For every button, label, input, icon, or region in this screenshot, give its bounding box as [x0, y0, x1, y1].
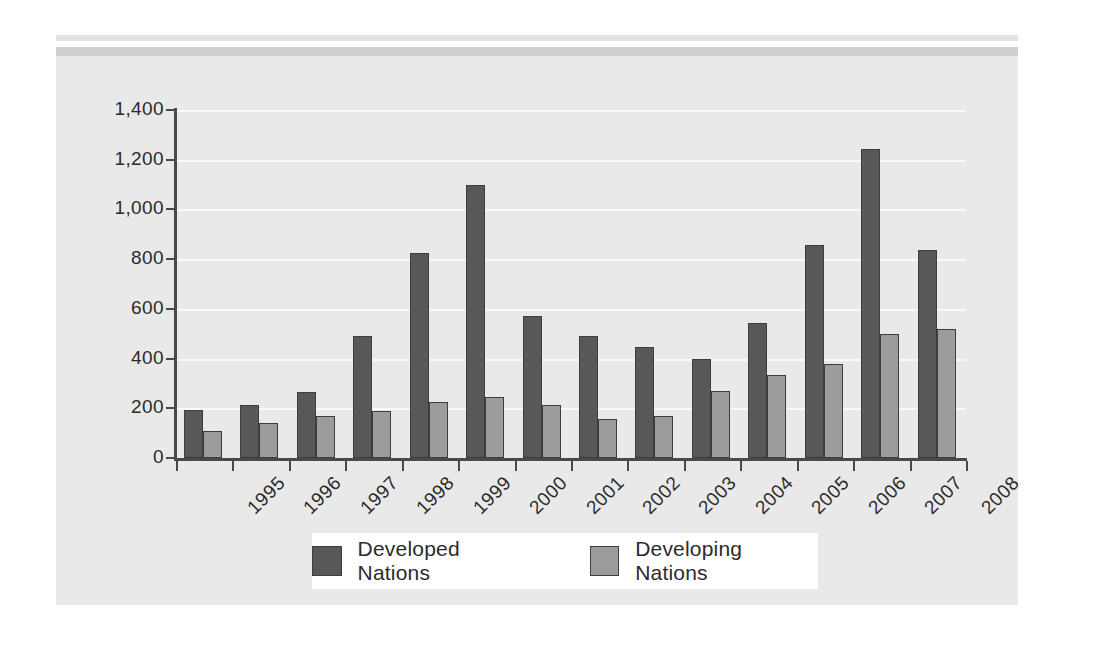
y-axis-tick-label: 0	[90, 446, 164, 468]
bar-group	[402, 110, 458, 458]
bar	[372, 411, 391, 458]
legend-swatch-developed	[312, 546, 342, 576]
x-axis-tick-label: 1996	[299, 472, 346, 519]
x-axis-tick-label: 2002	[638, 472, 685, 519]
x-axis-tick	[966, 461, 968, 471]
y-axis-tick-label: 400	[90, 347, 164, 369]
x-axis-tick-label: 1999	[469, 472, 516, 519]
plot-area	[176, 110, 966, 458]
x-axis-tick-label: 1998	[412, 472, 459, 519]
bar	[880, 334, 899, 458]
x-axis-tick	[232, 461, 234, 471]
y-axis-tick-label: 1,000	[90, 197, 164, 219]
bar	[937, 329, 956, 458]
bar	[410, 253, 429, 458]
x-axis-tick-label: 2008	[977, 472, 1024, 519]
bar-group	[458, 110, 514, 458]
x-axis-tick	[176, 461, 178, 471]
y-axis-tick-label: 800	[90, 247, 164, 269]
page-top-band-dark	[56, 47, 1018, 56]
bar-group	[515, 110, 571, 458]
y-axis-labels: 02004006008001,0001,2001,400	[82, 56, 164, 516]
bar	[748, 323, 767, 458]
bar	[297, 392, 316, 458]
bar-group	[289, 110, 345, 458]
x-axis-tick	[740, 461, 742, 471]
legend-item-developed: Developed Nations	[312, 537, 536, 585]
bar	[466, 185, 485, 458]
x-axis-tick	[797, 461, 799, 471]
y-axis-tick-label: 1,200	[90, 148, 164, 170]
legend-label-developed: Developed Nations	[358, 537, 536, 585]
bar	[692, 359, 711, 458]
x-axis-tick	[627, 461, 629, 471]
bar	[635, 347, 654, 458]
bar-group	[232, 110, 288, 458]
y-axis-tick	[166, 358, 176, 360]
bar	[353, 336, 372, 458]
x-axis-tick	[684, 461, 686, 471]
bar-group	[571, 110, 627, 458]
y-axis-tick	[166, 208, 176, 210]
x-axis-tick-label: 1997	[356, 472, 403, 519]
chart-legend: Developed Nations Developing Nations	[312, 533, 818, 589]
x-axis-tick-label: 2004	[751, 472, 798, 519]
bar-group	[345, 110, 401, 458]
x-axis-tick-label: 2006	[864, 472, 911, 519]
y-axis-tick	[166, 407, 176, 409]
x-axis-tick	[853, 461, 855, 471]
x-axis-tick-label: 2005	[807, 472, 854, 519]
legend-label-developing: Developing Nations	[635, 537, 818, 585]
bar	[184, 410, 203, 458]
bar-group	[740, 110, 796, 458]
bar	[824, 364, 843, 458]
bar	[523, 316, 542, 458]
bar	[805, 245, 824, 458]
bar	[316, 416, 335, 458]
legend-swatch-developing	[590, 546, 620, 576]
y-axis-tick	[166, 308, 176, 310]
bar-group	[627, 110, 683, 458]
x-axis-tick	[345, 461, 347, 471]
bar-group	[684, 110, 740, 458]
x-axis-tick	[458, 461, 460, 471]
page-top-band-light	[56, 35, 1018, 41]
bar	[654, 416, 673, 458]
x-axis-tick	[515, 461, 517, 471]
bar-group	[176, 110, 232, 458]
y-axis-tick	[166, 457, 176, 459]
bar	[598, 419, 617, 458]
bar-group	[797, 110, 853, 458]
x-axis-tick-label: 1995	[243, 472, 290, 519]
x-axis-tick	[289, 461, 291, 471]
bar-group	[910, 110, 966, 458]
bar	[240, 405, 259, 458]
y-axis-tick	[166, 159, 176, 161]
bar-group	[853, 110, 909, 458]
x-axis-tick	[402, 461, 404, 471]
y-axis-tick	[166, 258, 176, 260]
y-axis-tick-label: 200	[90, 396, 164, 418]
x-axis-tick	[571, 461, 573, 471]
y-axis-tick-label: 600	[90, 297, 164, 319]
scanned-page: 02004006008001,0001,2001,400 19951996199…	[0, 0, 1097, 653]
bar	[767, 375, 786, 458]
bar	[579, 336, 598, 458]
y-axis-tick	[166, 109, 176, 111]
chart-panel: 02004006008001,0001,2001,400 19951996199…	[56, 56, 1018, 605]
x-axis-tick-label: 2003	[694, 472, 741, 519]
x-axis-tick	[910, 461, 912, 471]
bar	[861, 149, 880, 458]
bar	[918, 250, 937, 458]
bar	[542, 405, 561, 458]
legend-item-developing: Developing Nations	[590, 537, 818, 585]
x-axis-tick-label: 2000	[525, 472, 572, 519]
bar	[711, 391, 730, 458]
y-axis-tick-label: 1,400	[90, 98, 164, 120]
x-axis-tick-label: 2007	[920, 472, 967, 519]
bar	[429, 402, 448, 458]
bar	[259, 423, 278, 458]
bar	[203, 431, 222, 458]
x-axis-tick-label: 2001	[582, 472, 629, 519]
bar	[485, 397, 504, 458]
